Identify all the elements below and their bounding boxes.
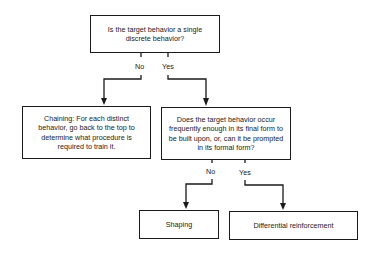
decision-node-frequency: Does the target behavior occur frequentl…	[161, 107, 291, 160]
node-text: Does the target behavior occur frequentl…	[168, 115, 284, 152]
arrowhead-icon	[101, 98, 107, 105]
node-text: Differential reinforcement	[253, 221, 333, 230]
q2-yes-arrow	[245, 180, 283, 205]
node-text: Shaping	[166, 220, 192, 229]
arrowhead-icon	[183, 202, 189, 209]
decision-node-single-discrete: Is the target behavior a single discrete…	[90, 15, 220, 53]
edge-label-q2-no: No	[206, 168, 215, 176]
arrowhead-icon	[203, 98, 209, 106]
edge-label-q2-yes: Yes	[239, 169, 251, 177]
node-text: Is the target behavior a single discrete…	[105, 25, 205, 43]
outcome-node-chaining: Chaining: For each distinct behavior, go…	[22, 106, 151, 159]
node-text: Chaining: For each distinct behavior, go…	[33, 114, 140, 151]
edge-label-q1-yes: Yes	[162, 63, 174, 71]
q1-no-arrow	[104, 75, 141, 101]
q2-no-arrow	[186, 179, 212, 204]
arrowhead-icon	[280, 203, 286, 210]
outcome-node-shaping: Shaping	[139, 210, 219, 239]
outcome-node-differential-reinforcement: Differential reinforcement	[229, 211, 358, 240]
edge-label-q1-no: No	[135, 63, 144, 71]
q1-yes-arrow	[168, 75, 206, 101]
